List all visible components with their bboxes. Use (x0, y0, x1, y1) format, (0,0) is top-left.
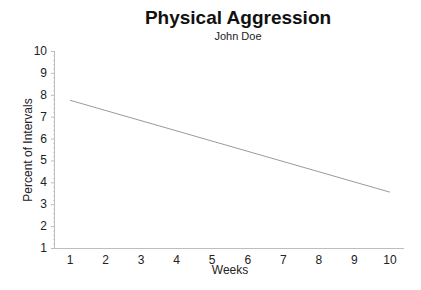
y-tick-label: 10 (34, 44, 48, 58)
y-axis-label: Percent of Intervals (21, 98, 35, 201)
x-tick-label: 4 (173, 253, 180, 267)
y-tick-label: 8 (40, 88, 47, 102)
x-tick-label: 3 (138, 253, 145, 267)
y-tick-label: 2 (40, 219, 47, 233)
y-axis-ticks: 12345678910 (34, 44, 55, 255)
x-tick-label: 7 (280, 253, 287, 267)
x-tick-label: 8 (316, 253, 323, 267)
y-tick-label: 5 (40, 153, 47, 167)
trend-line (70, 100, 390, 192)
data-series (70, 100, 390, 192)
y-tick-label: 3 (40, 197, 47, 211)
x-tick-label: 1 (67, 253, 74, 267)
x-tick-label: 2 (102, 253, 109, 267)
x-tick-label: 10 (383, 253, 397, 267)
y-tick-label: 7 (40, 110, 47, 124)
x-axis-label: Weeks (212, 263, 248, 277)
x-tick-label: 9 (351, 253, 358, 267)
chart-plot: 12345678910 12345678910 Weeks Percent of… (0, 0, 421, 290)
y-tick-label: 4 (40, 175, 47, 189)
y-tick-label: 1 (40, 241, 47, 255)
y-tick-label: 6 (40, 132, 47, 146)
y-tick-label: 9 (40, 66, 47, 80)
